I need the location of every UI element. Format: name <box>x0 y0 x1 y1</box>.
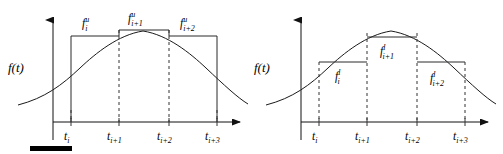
right-tick-label-3: ti+3 <box>453 130 468 145</box>
right-panel: f(t) fli fli+1 fli+2 ti ti+1 ti+2 ti+3 <box>254 20 496 145</box>
figure-container: f(t) fui fui+1 fui+2 ti ti+1 ti+2 ti+3 <box>0 0 503 154</box>
left-tick-label-2: ti+2 <box>157 130 172 145</box>
left-upper-step-outline <box>71 30 217 122</box>
left-panel: f(t) fui fui+1 fui+2 ti ti+1 ti+2 ti+3 <box>8 10 248 145</box>
scale-bar <box>30 146 72 151</box>
right-tick-label-1: ti+1 <box>355 130 370 145</box>
left-step-label-0: fui <box>82 15 89 33</box>
right-step-label-1: fli+1 <box>380 43 394 61</box>
right-function-label: f(t) <box>254 60 270 75</box>
left-function-label: f(t) <box>8 60 24 75</box>
left-step-label-2: fui+2 <box>180 15 195 33</box>
left-step-label-1: fui+1 <box>128 10 143 28</box>
right-step-label-0: fli <box>335 68 341 86</box>
left-tick-label-3: ti+3 <box>205 130 220 145</box>
right-tick-label-2: ti+2 <box>405 130 420 145</box>
left-tick-label-1: ti+1 <box>107 130 122 145</box>
right-tick-label-0: ti <box>312 130 317 145</box>
left-tick-label-0: ti <box>64 130 69 145</box>
figure-svg: f(t) fui fui+1 fui+2 ti ti+1 ti+2 ti+3 <box>0 0 503 154</box>
right-step-label-2: fli+2 <box>430 70 444 88</box>
